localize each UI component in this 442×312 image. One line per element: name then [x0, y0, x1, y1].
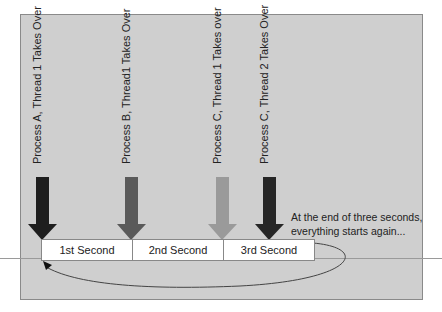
restart-note: At the end of three seconds, everything …	[291, 210, 422, 238]
diagram-graphics	[0, 0, 442, 312]
timeline-segment-1st-second: 1st Second	[42, 240, 132, 260]
down-arrow-icon-process-c-thread-2	[255, 177, 284, 240]
restart-note-line-1: At the end of three seconds,	[291, 210, 422, 224]
timeline-segment-3rd-second: 3rd Second	[223, 240, 314, 260]
down-arrow-icon-process-b	[117, 177, 146, 240]
timeline-bar: 1st Second 2nd Second 3rd Second	[41, 239, 315, 261]
timeline-segment-2nd-second: 2nd Second	[132, 240, 223, 260]
down-arrow-icon-process-c-thread-1	[208, 177, 237, 240]
restart-note-line-2: everything starts again...	[291, 224, 422, 238]
down-arrow-icon-process-a	[28, 177, 57, 240]
loop-arrowhead-icon	[43, 261, 52, 270]
